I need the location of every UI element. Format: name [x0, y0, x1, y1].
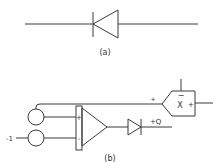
multiplier-right-sign: + — [188, 101, 194, 109]
opamp-triangle-icon — [82, 108, 107, 146]
output-diode-icon — [128, 119, 141, 135]
opamp-plus: + — [76, 114, 82, 122]
figure-b: − X + + -1 + - +Q (b) — [6, 79, 213, 163]
figure-b-label: (b) — [104, 154, 115, 163]
opamp-minus: - — [78, 135, 81, 143]
figure-a: (a) — [25, 10, 198, 57]
multiplier-symbol: X — [177, 101, 183, 110]
opamp-input-box — [76, 106, 82, 150]
source-circle-1 — [28, 109, 44, 125]
multiplier-input-sign: + — [150, 95, 155, 102]
figure-a-label: (a) — [99, 48, 110, 57]
diagram-canvas: (a) − X + + -1 + - +Q (b) — [0, 0, 218, 168]
multiplier-top-sign: − — [178, 91, 185, 100]
diode-icon — [93, 10, 118, 38]
feedback-wire — [36, 104, 162, 109]
input-label: -1 — [6, 135, 13, 143]
output-label: +Q — [150, 118, 162, 126]
source-circle-2 — [28, 130, 44, 146]
